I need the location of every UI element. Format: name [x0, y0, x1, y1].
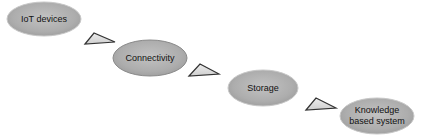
arrow-triangle-icon	[85, 33, 115, 44]
node-connectivity-label: Connectivity	[113, 40, 187, 76]
node-kbs-label: Knowledge based system	[340, 98, 414, 134]
node-label-text: Storage	[247, 83, 279, 94]
arrow-triangle-icon	[306, 98, 336, 110]
node-label-line: Knowledge	[355, 105, 400, 116]
node-iot-devices-label: IoT devices	[7, 2, 81, 36]
node-storage-label: Storage	[228, 70, 298, 106]
node-label-text: Connectivity	[125, 53, 174, 64]
arrow-triangle-icon	[189, 64, 219, 76]
node-label-line: based system	[349, 116, 405, 127]
node-label-text: IoT devices	[21, 14, 67, 25]
